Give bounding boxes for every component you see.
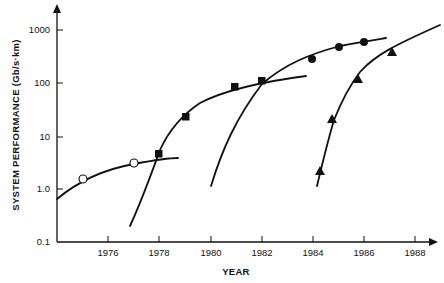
marker-square xyxy=(182,113,190,121)
y-tick-label: 0.1 xyxy=(37,236,50,247)
marker-triangle xyxy=(387,47,397,56)
x-tick-label: 1978 xyxy=(148,247,169,258)
curve-filled-circle xyxy=(211,38,386,186)
y-tick-label: 10 xyxy=(39,131,50,142)
marker-open-circle xyxy=(130,159,138,167)
curve-filled-triangle xyxy=(317,25,440,186)
axes xyxy=(57,12,430,242)
marker-square xyxy=(155,150,163,158)
y-axis-title: SYSTEM PERFORMANCE (Gb/s·km) xyxy=(10,39,21,211)
fit-curves xyxy=(57,25,440,226)
y-tick-label: 1000 xyxy=(29,24,50,35)
performance-chart: 1000 100 10 1.0 0.1 1976 1978 1980 1982 … xyxy=(0,0,444,283)
marker-square xyxy=(231,83,239,91)
series-filled-square xyxy=(155,77,266,158)
x-tick-label: 1976 xyxy=(97,247,118,258)
marker-filled-circle xyxy=(308,55,316,63)
y-tick-label: 100 xyxy=(34,77,50,88)
x-tick-label: 1986 xyxy=(353,247,374,258)
y-tick-labels: 1000 100 10 1.0 0.1 xyxy=(29,24,50,247)
x-tick-labels: 1976 1978 1980 1982 1984 1986 1988 xyxy=(97,247,425,258)
marker-filled-circle xyxy=(335,43,343,51)
x-axis-title: YEAR xyxy=(222,266,250,277)
x-tick-label: 1980 xyxy=(200,247,221,258)
y-tick-label: 1.0 xyxy=(37,183,50,194)
y-axis-arrow-icon xyxy=(53,4,61,13)
x-axis-arrow-icon xyxy=(429,238,438,246)
series-filled-triangle xyxy=(315,47,397,175)
x-tick-label: 1984 xyxy=(302,247,323,258)
x-ticks xyxy=(108,236,415,242)
x-tick-label: 1988 xyxy=(404,247,425,258)
marker-square xyxy=(258,77,266,85)
y-ticks xyxy=(57,30,63,189)
x-tick-label: 1982 xyxy=(251,247,272,258)
marker-filled-circle xyxy=(360,38,368,46)
curve-open-circle xyxy=(57,158,178,199)
marker-open-circle xyxy=(79,175,87,183)
marker-triangle xyxy=(315,166,325,175)
